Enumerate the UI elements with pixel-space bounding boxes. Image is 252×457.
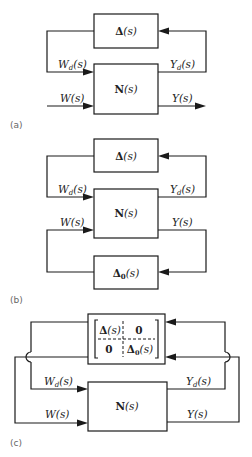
wd-feedback-line-upper (31, 322, 88, 352)
y-label: Y(s) (172, 216, 193, 228)
n-block-label: N(s) (114, 207, 137, 219)
arrow-head (158, 28, 169, 35)
delta0-block-label: Δ0(s) (113, 267, 140, 281)
delta-block-label: Δ(s) (115, 25, 137, 37)
panel-a-caption: (a) (10, 120, 23, 130)
arrow-head (77, 386, 88, 393)
arrow-head (165, 354, 176, 361)
n-block-label: N(s) (115, 400, 138, 412)
yd-label: Yd(s) (186, 375, 211, 389)
panel-a: Δ(s) N(s) Wd(s) Yd(s) W(s) Y(s) (a) (10, 14, 206, 130)
n-block-label: N(s) (114, 83, 137, 95)
arrow-head (83, 103, 94, 110)
matrix-entry-11: Δ(s) (99, 324, 121, 336)
yd-label: Yd(s) (170, 58, 195, 72)
arrow-head (165, 319, 176, 326)
panel-b-caption: (b) (10, 295, 23, 305)
arrow-head (195, 103, 206, 110)
matrix-entry-12: 0 (135, 324, 142, 336)
w-label: W(s) (60, 216, 84, 228)
arrow-head (77, 420, 88, 427)
arrow-head (158, 153, 169, 160)
delta-block-label: Δ(s) (115, 150, 137, 162)
matrix-entry-22: Δ0(s) (127, 343, 153, 357)
y-feedback-line (158, 230, 206, 272)
w-feedback-line (47, 230, 94, 272)
y-label: Y(s) (187, 408, 208, 420)
w-label: W(s) (60, 92, 84, 104)
w-label: W(s) (45, 408, 69, 420)
wd-label: Wd(s) (58, 58, 87, 72)
matrix-entry-21: 0 (105, 343, 112, 355)
arrow-head (158, 269, 169, 276)
wd-label: Wd(s) (44, 375, 73, 389)
yd-label: Yd(s) (170, 183, 195, 197)
wd-label: Wd(s) (58, 183, 87, 197)
yd-feedback-line-upper (173, 322, 225, 352)
panel-c: Δ(s) 0 0 Δ0(s) N(s) Wd(s) Yd(s) W(s) Y(s… (10, 314, 239, 448)
panel-c-caption: (c) (10, 438, 22, 448)
panel-b: Δ(s) N(s) Δ0(s) Wd(s) Yd(s) W(s) Y(s) (b… (10, 139, 206, 305)
y-label: Y(s) (172, 92, 193, 104)
block-diagram: Δ(s) N(s) Wd(s) Yd(s) W(s) Y(s) (a) Δ(s)… (0, 0, 252, 457)
arrow-head (83, 227, 94, 234)
